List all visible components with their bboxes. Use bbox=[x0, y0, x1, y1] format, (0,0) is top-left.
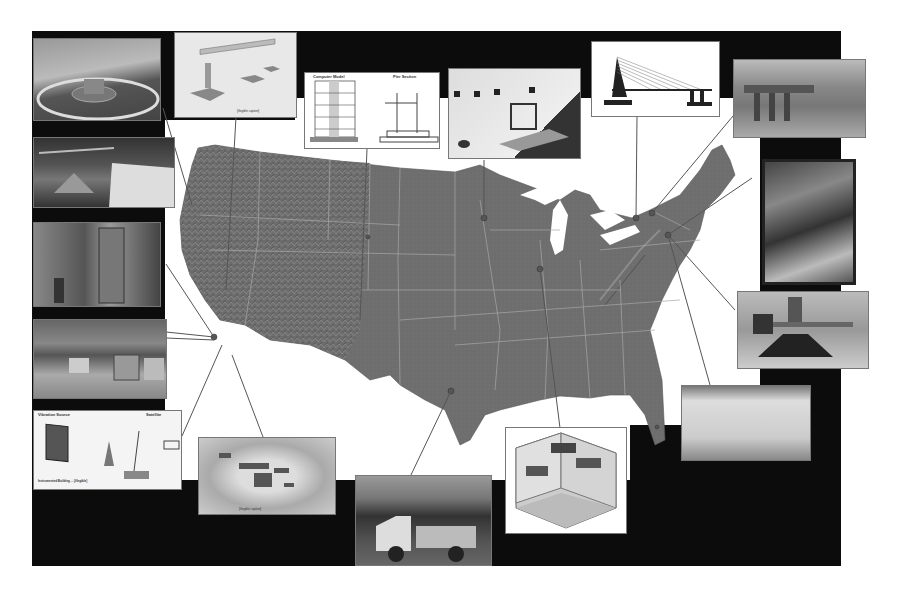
inset-photo-centrifuge-arm bbox=[33, 137, 175, 208]
inset-photo-centrifuge-facility bbox=[33, 38, 161, 121]
inset-photo-lab-bay-specimen bbox=[33, 222, 161, 307]
inset-diagram-computer-model-pier-section: Computer Model Pier Section bbox=[304, 72, 440, 149]
inset-photo-structural-test-frame bbox=[733, 59, 866, 138]
inset-photo-actuator-rig bbox=[737, 291, 869, 369]
label-satellite: Satellite bbox=[146, 413, 161, 417]
label-instrumented-building: Instrumented Building ... [illegible] bbox=[38, 480, 108, 484]
centrifuge-image bbox=[34, 39, 161, 121]
inset-caption: [illegible caption] bbox=[239, 508, 261, 512]
inset-photo-mobile-shaker-trucks bbox=[355, 475, 492, 566]
inset-caption: [illegible caption] bbox=[237, 110, 292, 114]
inset-diagram-reaction-wall-lab bbox=[448, 68, 581, 159]
cable-stayed-bridge-drawing bbox=[592, 42, 720, 117]
inset-diagram-facility-aerial-sketch: [illegible caption] bbox=[198, 437, 336, 515]
label-computer-model: Computer Model bbox=[313, 75, 345, 79]
label-pier-section: Pier Section bbox=[393, 75, 416, 79]
inset-photo-field-test-site bbox=[33, 319, 167, 399]
inset-diagram-cable-stayed-bridge bbox=[591, 41, 720, 117]
inset-diagram-bridge-shake-tables: [illegible caption] bbox=[174, 32, 297, 118]
inset-photo-strong-wall bbox=[681, 385, 811, 461]
label-vibration-source: Vibration Source bbox=[38, 413, 70, 417]
inset-diagram-field-instrumentation: Vibration Source Satellite Instrumented … bbox=[33, 410, 182, 490]
inset-photo-lab-specimen-overhead bbox=[762, 159, 856, 285]
isometric-lab-drawing bbox=[506, 428, 627, 534]
inset-diagram-isometric-shake-table-lab bbox=[505, 427, 627, 534]
